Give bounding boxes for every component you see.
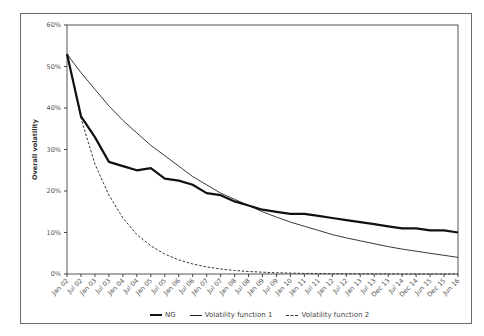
line-chart: 0%10%20%30%40%50%60%Overall volatilityJa…: [0, 0, 484, 336]
legend-swatch-thick-line-icon: [150, 314, 162, 316]
legend-item-volatility-function-2: Volatility function 2: [286, 311, 369, 319]
legend-swatch-dashed-line-icon: [286, 315, 298, 316]
legend-label: Volatility function 1: [205, 311, 273, 319]
y-tick-label: 60%: [47, 21, 61, 29]
y-tick-label: 20%: [47, 187, 61, 195]
y-tick-label: 40%: [47, 104, 61, 112]
legend-label: Volatility function 2: [301, 311, 369, 319]
legend-item-ng: NG: [150, 311, 176, 319]
plot-area: [67, 25, 458, 274]
y-tick-label: 50%: [47, 63, 61, 71]
series-line-volatility-function-2: [67, 54, 458, 274]
series-line-ng: [67, 54, 458, 232]
y-tick-label: 0%: [51, 270, 61, 278]
y-axis-label: Overall volatility: [31, 118, 39, 180]
legend-label: NG: [165, 311, 176, 319]
chart-legend: NG Volatility function 1 Volatility func…: [150, 308, 369, 322]
legend-item-volatility-function-1: Volatility function 1: [190, 311, 273, 319]
y-tick-label: 30%: [47, 146, 61, 154]
y-tick-label: 10%: [47, 229, 61, 237]
legend-swatch-thin-line-icon: [190, 315, 202, 316]
